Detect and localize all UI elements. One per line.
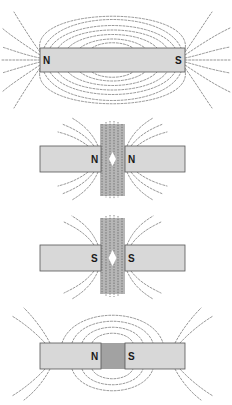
bar-magnet	[40, 48, 185, 72]
panel-unlike-poles: N S	[12, 308, 213, 400]
panel-single-bar: N S	[2, 12, 230, 108]
pole-label-right: S	[175, 55, 182, 66]
pole-label-right: S	[128, 253, 135, 264]
panel-like-poles-south: S S	[40, 215, 185, 299]
panel-like-poles-north: N N	[40, 118, 185, 200]
magnetic-field-diagram: N S N N	[0, 0, 232, 405]
pole-label-left: S	[91, 253, 98, 264]
pole-label-left: N	[43, 55, 50, 66]
pole-label-left: N	[91, 351, 98, 362]
pole-label-right: S	[128, 351, 135, 362]
pole-label-left: N	[91, 154, 98, 165]
pole-label-right: N	[128, 154, 135, 165]
